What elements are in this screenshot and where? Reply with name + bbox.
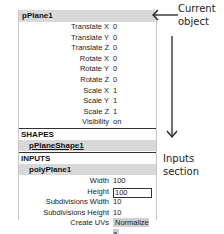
annotation-current: Current bbox=[178, 3, 216, 15]
object-title[interactable]: pPlane1 bbox=[19, 10, 156, 22]
attr-row-scale-x[interactable]: Scale X1 bbox=[19, 86, 156, 97]
attr-row-rotate-z[interactable]: Rotate Z0 bbox=[19, 75, 156, 86]
shape-node[interactable]: pPlaneShape1 bbox=[19, 140, 156, 151]
attr-row-rotate-y[interactable]: Rotate Y0 bbox=[19, 64, 156, 75]
down-arrow-icon bbox=[165, 36, 179, 140]
input-node[interactable]: polyPlane1 bbox=[19, 164, 156, 175]
annotation-object: object bbox=[178, 16, 209, 28]
attr-row-subdivisions-height[interactable]: Subdivisions Height10 bbox=[19, 208, 156, 219]
attr-row-visibility[interactable]: Visibilityon bbox=[19, 117, 156, 128]
attr-row-translate-y[interactable]: Translate Y0 bbox=[19, 33, 156, 44]
attr-row-translate-x[interactable]: Translate X0 bbox=[19, 22, 156, 33]
attr-row-translate-z[interactable]: Translate Z0 bbox=[19, 43, 156, 54]
create-uvs-dropdown[interactable]: Normalize a bbox=[113, 218, 149, 234]
current-object-arrow-icon bbox=[150, 9, 180, 21]
attr-row-subdivisions-width[interactable]: Subdivisions Width10 bbox=[19, 197, 156, 208]
channel-box-panel: pPlane1 Translate X0 Translate Y0 Transl… bbox=[18, 10, 157, 220]
height-input[interactable]: 100 bbox=[113, 188, 152, 198]
attr-row-scale-z[interactable]: Scale Z1 bbox=[19, 107, 156, 118]
transform-attributes: Translate X0 Translate Y0 Translate Z0 R… bbox=[19, 22, 156, 128]
shapes-header: SHAPES bbox=[19, 128, 156, 140]
attr-row-height[interactable]: Height100 bbox=[19, 187, 156, 198]
inputs-header: INPUTS bbox=[19, 152, 156, 164]
attr-row-width[interactable]: Width100 bbox=[19, 176, 156, 187]
attr-row-create-uvs[interactable]: Create UVsNormalize a bbox=[19, 218, 156, 229]
annotation-inputs: Inputs bbox=[163, 153, 194, 165]
attr-row-scale-y[interactable]: Scale Y1 bbox=[19, 96, 156, 107]
annotation-section: section bbox=[163, 166, 199, 178]
input-attributes: Width100 Height100 Subdivisions Width10 … bbox=[19, 176, 156, 229]
attr-row-rotate-x[interactable]: Rotate X0 bbox=[19, 54, 156, 65]
